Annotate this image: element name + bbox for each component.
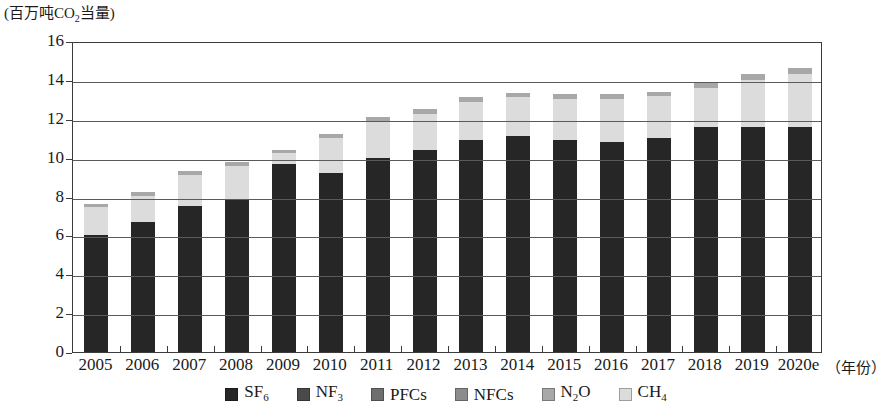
legend-swatch-icon xyxy=(542,388,555,401)
y-axis-tick-label: 2 xyxy=(34,303,64,323)
y-axis-tick-label: 16 xyxy=(34,31,64,51)
bar-segment-CH xyxy=(647,96,671,138)
x-axis-tick-label: 2012 xyxy=(400,355,447,375)
bar-group xyxy=(506,41,530,352)
legend-swatch-icon xyxy=(619,388,632,401)
x-axis-tick-label: 2008 xyxy=(213,355,260,375)
y-axis-tick-mark xyxy=(66,159,72,160)
legend-label: NF3 xyxy=(316,383,343,406)
x-axis-tick-mark xyxy=(120,346,121,352)
y-axis-tick-mark xyxy=(66,353,72,354)
y-axis-tick-label: 8 xyxy=(34,187,64,207)
bar-group xyxy=(741,41,765,352)
x-axis-title: （年份） xyxy=(826,356,886,377)
bar-segment-NO xyxy=(506,93,530,98)
gridline xyxy=(73,237,821,238)
x-axis-tick-mark xyxy=(261,346,262,352)
legend-item[interactable]: N2O xyxy=(542,383,591,406)
bar-group xyxy=(366,41,390,352)
gridline xyxy=(73,121,821,122)
gridline xyxy=(73,199,821,200)
gridline xyxy=(73,315,821,316)
bar-segment-SF xyxy=(131,222,155,352)
legend-label: PFCs xyxy=(390,386,427,403)
x-axis-tick-mark xyxy=(682,346,683,352)
bar-segment-SF xyxy=(319,173,343,352)
gridline xyxy=(73,276,821,277)
bar-segment-CH xyxy=(741,80,765,127)
bar-group xyxy=(553,41,577,352)
x-axis-tick-label: 2009 xyxy=(260,355,307,375)
x-axis-tick-label: 2013 xyxy=(447,355,494,375)
stacked-bar-chart: (百万吨CO2当量) 0246810121416 200520062007200… xyxy=(0,0,892,411)
bar-group xyxy=(413,41,437,352)
y-axis-tick-mark xyxy=(66,120,72,121)
y-axis-tick-mark xyxy=(66,198,72,199)
y-axis-tick-mark xyxy=(66,236,72,237)
x-axis-tick-label: 2015 xyxy=(541,355,588,375)
x-axis-tick-mark xyxy=(776,346,777,352)
bar-segment-NO xyxy=(553,94,577,99)
bar-group xyxy=(225,41,249,352)
legend-label: NFCs xyxy=(474,386,514,403)
bar-segment-NO xyxy=(413,109,437,114)
bar-segment-CH xyxy=(178,175,202,206)
legend-item[interactable]: NF3 xyxy=(297,383,343,406)
bar-group xyxy=(131,41,155,352)
x-axis-tick-mark xyxy=(495,346,496,352)
bar-segment-CH xyxy=(366,122,390,158)
bar-segment-CH xyxy=(84,207,108,235)
legend-item[interactable]: NFCs xyxy=(455,386,514,403)
bar-group xyxy=(600,41,624,352)
bar-segment-CH xyxy=(272,153,296,165)
bar-segment-CH xyxy=(225,166,249,200)
bar-segment-NO xyxy=(178,171,202,175)
bar-segment-SF xyxy=(459,140,483,352)
y-axis-tick-label: 4 xyxy=(34,264,64,284)
gridline xyxy=(73,82,821,83)
legend-item[interactable]: SF6 xyxy=(225,383,268,406)
x-axis-tick-mark xyxy=(401,346,402,352)
bar-segment-SF xyxy=(272,164,296,352)
x-axis-tick-mark xyxy=(307,346,308,352)
bar-group xyxy=(788,41,812,352)
x-axis-tick-label: 2010 xyxy=(306,355,353,375)
bar-segment-CH xyxy=(553,99,577,140)
legend-item[interactable]: PFCs xyxy=(371,386,427,403)
x-axis-tick-label: 2019 xyxy=(728,355,775,375)
bar-segment-CH xyxy=(319,138,343,173)
bar-group xyxy=(459,41,483,352)
x-axis-tick-mark xyxy=(542,346,543,352)
x-axis-tick-mark xyxy=(636,346,637,352)
legend-label: SF6 xyxy=(244,383,268,406)
y-axis-tick-label: 6 xyxy=(34,225,64,245)
y-axis-tick-label: 10 xyxy=(34,148,64,168)
legend-item[interactable]: CH4 xyxy=(619,383,667,406)
bar-segment-SF xyxy=(553,140,577,352)
bar-segment-NO xyxy=(84,204,108,207)
legend-swatch-icon xyxy=(371,388,384,401)
y-axis-unit-label: (百万吨CO2当量) xyxy=(4,4,115,28)
bar-segment-SF xyxy=(647,138,671,352)
legend-label: N2O xyxy=(561,383,591,406)
bar-group xyxy=(319,41,343,352)
bar-segment-CH xyxy=(413,114,437,150)
bar-group xyxy=(694,41,718,352)
bar-segment-NO xyxy=(741,74,765,80)
x-axis-tick-label: 2007 xyxy=(166,355,213,375)
x-axis-tick-label: 2011 xyxy=(353,355,400,375)
x-axis-tick-label: 2016 xyxy=(588,355,635,375)
bar-group xyxy=(84,41,108,352)
legend-swatch-icon xyxy=(455,388,468,401)
y-axis-tick-mark xyxy=(66,314,72,315)
x-axis-tick-label: 2018 xyxy=(681,355,728,375)
plot-area xyxy=(72,42,822,353)
bar-segment-NO xyxy=(225,162,249,166)
bar-group xyxy=(178,41,202,352)
y-axis-tick-mark xyxy=(66,81,72,82)
bar-segment-SF xyxy=(84,235,108,352)
y-axis-tick-label: 12 xyxy=(34,109,64,129)
bars-layer xyxy=(73,43,821,352)
bar-segment-NO xyxy=(459,97,483,102)
legend-swatch-icon xyxy=(225,388,238,401)
